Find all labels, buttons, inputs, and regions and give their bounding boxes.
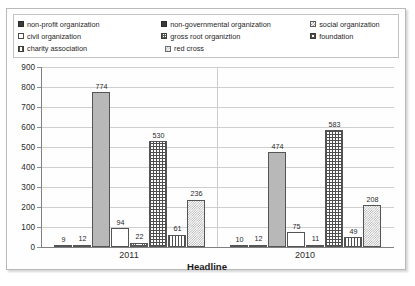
legend-swatch-civil-organization: [18, 33, 24, 39]
x-axis-category-2011: 2011: [119, 250, 138, 260]
bar-value-label: 22: [136, 232, 144, 241]
bar-gross-root-organiztion-2011: [130, 243, 148, 247]
chart-container: non-profit organizationnon-governmental …: [6, 8, 406, 270]
bar-value-label: 583: [329, 120, 341, 129]
bar-value-label: 208: [367, 195, 379, 204]
bar-value-label: 774: [96, 82, 108, 91]
legend-item-red-cross[interactable]: red cross: [165, 45, 318, 52]
bar-series-container: 9127749422530612361012474751158349208: [42, 67, 394, 247]
legend-row: charity associationred cross: [18, 43, 394, 55]
legend-row: civil organizationgross root organiztion…: [18, 30, 394, 42]
legend-swatch-social-organization: [310, 21, 316, 27]
legend-swatch-red-cross: [165, 46, 171, 52]
bar-social-organization-2010: [268, 152, 286, 247]
bar-foundation-2011: [149, 141, 167, 247]
bar-charity-association-2010: [344, 237, 362, 247]
legend-swatch-non-profit-organization: [18, 21, 24, 27]
y-axis-tick-label: 600: [9, 123, 35, 132]
legend-item-label: red cross: [174, 45, 204, 52]
legend-swatch-non-governmental-organization: [161, 21, 167, 27]
bar-civil-organization-2011: [111, 228, 129, 247]
bar-gross-root-organiztion-2010: [306, 245, 324, 247]
bar-value-label: 236: [191, 189, 203, 198]
bar-red-cross-2011: [187, 200, 205, 247]
category-separator: [217, 67, 218, 247]
legend-item-non-profit-organization[interactable]: non-profit organization: [18, 21, 161, 28]
legend-item-non-governmental-organization[interactable]: non-governmental organization: [161, 21, 310, 28]
bar-value-label: 12: [255, 234, 263, 243]
legend-swatch-charity-association: [18, 46, 24, 52]
legend-item-label: non-profit organization: [27, 21, 100, 28]
x-axis-title: Headline: [7, 261, 407, 272]
bar-value-label: 61: [174, 224, 182, 233]
legend-item-charity-association[interactable]: charity association: [18, 45, 165, 52]
bar-social-organization-2011: [92, 92, 110, 247]
legend-item-label: foundation: [319, 33, 353, 40]
bar-value-label: 12: [79, 234, 87, 243]
bar-value-label: 75: [293, 222, 301, 231]
y-axis-tick-label: 300: [9, 183, 35, 192]
bar-non-profit-organization-2010: [230, 245, 248, 247]
bar-value-label: 10: [236, 235, 244, 244]
legend-item-social-organization[interactable]: social organization: [310, 21, 394, 28]
legend-swatch-foundation: [310, 33, 316, 39]
bar-value-label: 9: [62, 235, 66, 244]
y-axis-tick-label: 800: [9, 83, 35, 92]
y-axis-tick-label: 500: [9, 143, 35, 152]
legend-item-label: gross root organiztion: [170, 33, 240, 40]
bar-value-label: 530: [153, 131, 165, 140]
legend-item-civil-organization[interactable]: civil organization: [18, 33, 161, 40]
legend-item-label: civil organization: [27, 33, 81, 40]
bar-foundation-2010: [325, 130, 343, 247]
bar-value-label: 94: [117, 218, 125, 227]
bar-red-cross-2010: [363, 205, 381, 247]
y-axis-tick-label: 900: [9, 63, 35, 72]
bar-civil-organization-2010: [287, 232, 305, 247]
x-axis-category-2010: 2010: [295, 250, 315, 260]
bar-value-label: 11: [312, 234, 319, 243]
chart-legend: non-profit organizationnon-governmental …: [13, 14, 399, 58]
bar-non-profit-organization-2011: [54, 245, 72, 247]
bar-non-governmental-organization-2011: [73, 245, 91, 247]
bar-charity-association-2011: [168, 235, 186, 247]
legend-item-gross-root-organiztion[interactable]: gross root organiztion: [161, 33, 310, 40]
legend-swatch-gross-root-organiztion: [161, 33, 167, 39]
bar-non-governmental-organization-2010: [249, 245, 267, 247]
legend-item-label: charity association: [27, 45, 87, 52]
bar-value-label: 49: [350, 227, 358, 236]
y-axis-tick-label: 0: [9, 243, 35, 252]
legend-item-label: social organization: [319, 21, 379, 28]
y-axis-tick-label: 700: [9, 103, 35, 112]
y-axis-tick-label: 100: [9, 223, 35, 232]
legend-item-foundation[interactable]: foundation: [310, 33, 394, 40]
y-axis-tick-label: 400: [9, 163, 35, 172]
bar-value-label: 474: [272, 142, 284, 151]
legend-row: non-profit organizationnon-governmental …: [18, 18, 394, 30]
legend-item-label: non-governmental organization: [170, 21, 271, 28]
y-axis-tick-label: 200: [9, 203, 35, 212]
